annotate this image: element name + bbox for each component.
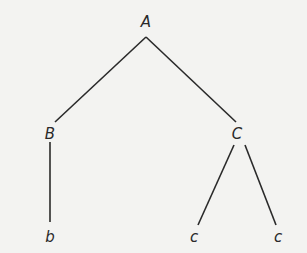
node-c2: c [274,230,282,245]
edge-A-B [55,37,146,122]
edge-A-C [146,37,236,122]
node-b: b [45,230,55,245]
edge-C-c2 [245,145,276,225]
node-C: C [232,127,242,142]
node-B: B [45,127,55,142]
node-c1: c [190,230,198,245]
edge-C-c1 [198,145,234,225]
tree-diagram: A B C b c c [0,0,307,253]
node-A: A [141,15,151,30]
